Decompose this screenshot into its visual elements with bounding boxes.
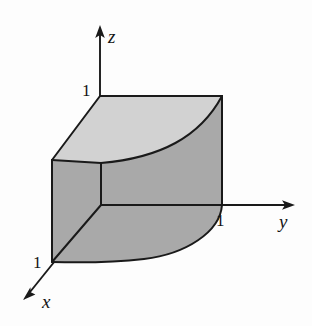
y-axis-label: y xyxy=(277,211,288,232)
z-axis-label: z xyxy=(107,26,116,47)
x-axis-arrowhead xyxy=(23,287,35,300)
z-tick-label-one: 1 xyxy=(82,81,91,100)
y-tick-label-one: 1 xyxy=(216,211,225,230)
figure-container: z y x 1 1 1 xyxy=(0,0,312,326)
solid-body-group xyxy=(52,96,222,262)
x-axis-label: x xyxy=(41,291,51,312)
three-dimensional-solid-figure: z y x 1 1 1 xyxy=(0,0,312,326)
x-tick-label-one: 1 xyxy=(33,253,42,272)
